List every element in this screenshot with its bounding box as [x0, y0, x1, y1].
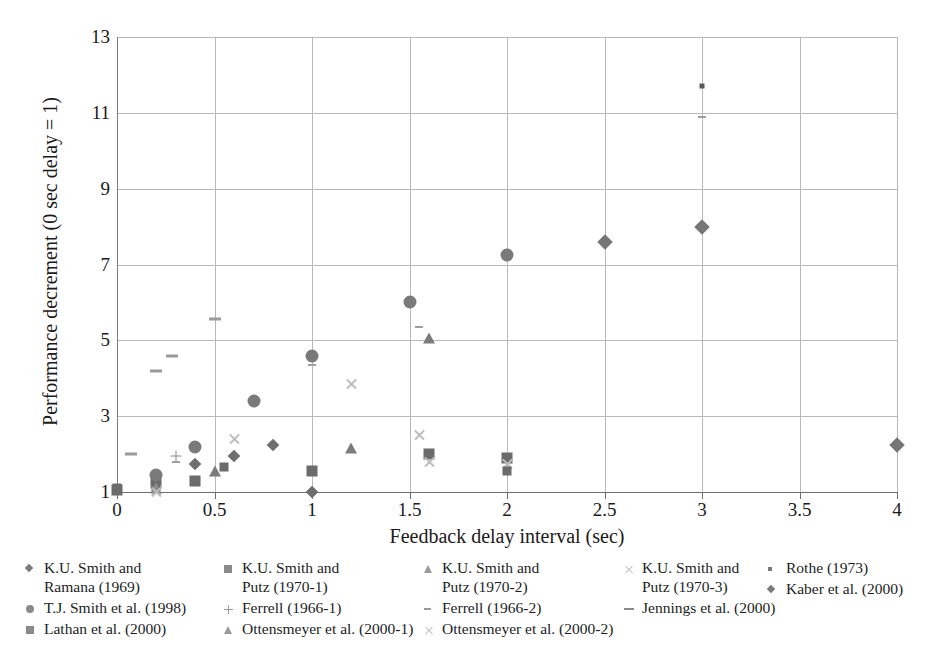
legend-column: K.U. Smith and Putz (1970-1)Ferrell (196… — [222, 558, 452, 640]
x-tick-mark — [117, 493, 118, 499]
x-tick-label: 3.5 — [770, 500, 830, 519]
legend-item-label: Rothe (1973) — [786, 559, 868, 576]
gridline-vertical — [702, 37, 703, 492]
x-tick-mark — [702, 493, 703, 499]
legend-marker-triangle-icon — [424, 565, 432, 573]
legend-item-label: Ferrell (1966-2) — [442, 599, 541, 616]
gridline-vertical — [410, 37, 411, 492]
y-tick-label: 9 — [70, 179, 110, 198]
legend-item[interactable]: Ferrell (1966-2) — [422, 598, 652, 617]
legend-item[interactable]: K.U. Smith and Ramana (1969) — [24, 558, 224, 596]
legend-item-label: K.U. Smith and Putz (1970-1) — [242, 559, 339, 595]
scatter-plot-figure: 135791113 00.511.522.533.54 Feedback del… — [0, 0, 947, 670]
legend-item-label: K.U. Smith and Putz (1970-3) — [642, 559, 739, 595]
y-tick-label: 13 — [70, 27, 110, 46]
legend-item-label: T.J. Smith et al. (1998) — [44, 599, 186, 616]
x-tick-mark — [312, 493, 313, 499]
x-tick-mark — [800, 493, 801, 499]
x-tick-mark — [507, 493, 508, 499]
x-tick-label: 1.5 — [380, 500, 440, 519]
legend-item-label: Kaber et al. (2000) — [786, 580, 903, 597]
legend-column: K.U. Smith and Putz (1970-2)Ferrell (196… — [422, 558, 652, 640]
gridline-vertical — [215, 37, 216, 492]
x-tick-label: 1 — [282, 500, 342, 519]
legend-item[interactable]: K.U. Smith and Putz (1970-2) — [422, 558, 652, 596]
legend-item[interactable]: Ferrell (1966-1) — [222, 598, 452, 617]
y-tick-label: 5 — [70, 330, 110, 349]
x-tick-label: 3 — [672, 500, 732, 519]
y-tick-label: 11 — [70, 103, 110, 122]
x-tick-label: 2 — [477, 500, 537, 519]
chart-legend: K.U. Smith and Ramana (1969)T.J. Smith e… — [24, 558, 929, 658]
legend-marker-square-icon — [224, 565, 232, 573]
y-axis-title: Performance decrement (0 sec delay = 1) — [39, 42, 62, 482]
x-tick-mark — [215, 493, 216, 499]
legend-item-label: Lathan et al. (2000) — [44, 620, 166, 637]
legend-item-label: K.U. Smith and Putz (1970-2) — [442, 559, 539, 595]
x-tick-label: 0 — [87, 500, 147, 519]
legend-marker-cross-icon — [424, 626, 434, 636]
x-tick-label: 2.5 — [575, 500, 635, 519]
gridline-vertical — [312, 37, 313, 492]
gridline-vertical — [800, 37, 801, 492]
legend-item[interactable]: Rothe (1973) — [766, 558, 936, 577]
legend-column: Rothe (1973)Kaber et al. (2000) — [766, 558, 936, 600]
legend-item[interactable]: Jennings et al. (2000) — [622, 598, 802, 617]
y-tick-label: 1 — [70, 482, 110, 501]
legend-marker-circle-icon — [26, 605, 34, 613]
legend-marker-tiny-square-icon — [768, 567, 772, 571]
legend-marker-dash-icon — [424, 608, 431, 610]
x-tick-label: 4 — [867, 500, 927, 519]
legend-marker-dash-long-icon — [624, 608, 634, 610]
legend-item-label: Ferrell (1966-1) — [242, 599, 341, 616]
legend-item[interactable]: T.J. Smith et al. (1998) — [24, 598, 224, 617]
x-tick-mark — [410, 493, 411, 499]
y-tick-label: 3 — [70, 406, 110, 425]
legend-item[interactable]: K.U. Smith and Putz (1970-1) — [222, 558, 452, 596]
legend-item[interactable]: Kaber et al. (2000) — [766, 579, 936, 598]
x-tick-label: 0.5 — [185, 500, 245, 519]
legend-item-label: Ottensmeyer et al. (2000-1) — [242, 620, 413, 637]
gridline-vertical — [897, 37, 898, 492]
legend-marker-diamond-icon — [25, 564, 33, 572]
legend-item-label: K.U. Smith and Ramana (1969) — [44, 559, 141, 595]
x-tick-mark — [605, 493, 606, 499]
legend-marker-triangle-icon — [224, 626, 232, 634]
legend-item-label: Jennings et al. (2000) — [642, 599, 775, 616]
legend-item[interactable]: Ottensmeyer et al. (2000-2) — [422, 619, 652, 638]
plot-area — [117, 37, 897, 492]
legend-item[interactable]: Ottensmeyer et al. (2000-1) — [222, 619, 452, 638]
legend-marker-square-icon — [26, 626, 34, 634]
y-tick-label: 7 — [70, 255, 110, 274]
legend-column: K.U. Smith and Ramana (1969)T.J. Smith e… — [24, 558, 224, 640]
gridline-vertical — [605, 37, 606, 492]
x-tick-mark — [897, 493, 898, 499]
legend-marker-diamond-icon — [767, 585, 775, 593]
y-axis-line — [117, 37, 118, 493]
gridline-vertical — [507, 37, 508, 492]
legend-marker-cross-icon — [624, 565, 634, 575]
x-axis-title: Feedback delay interval (sec) — [117, 525, 897, 548]
legend-item[interactable]: Lathan et al. (2000) — [24, 619, 224, 638]
legend-marker-plus-icon — [224, 605, 233, 614]
legend-item-label: Ottensmeyer et al. (2000-2) — [442, 620, 613, 637]
